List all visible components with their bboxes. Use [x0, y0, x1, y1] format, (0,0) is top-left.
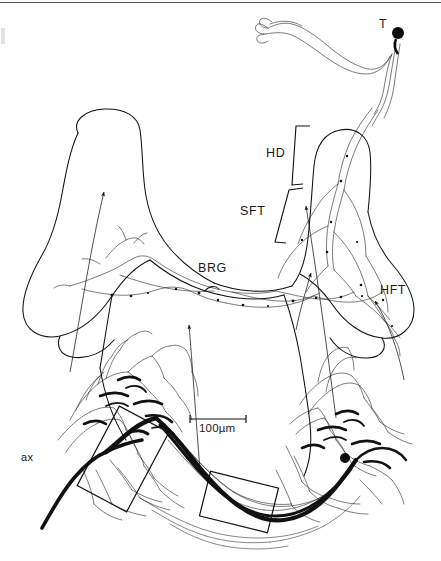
commissure-tract [156, 418, 356, 520]
left-dendritic-tuft [58, 331, 198, 520]
leader-to-mid-right [296, 273, 311, 330]
leader-to-sft [306, 206, 336, 418]
leader-to-hft [375, 301, 404, 380]
leader-arrow-group [70, 192, 404, 470]
neuron-drawing [0, 0, 441, 561]
neurite-arborization-group [54, 18, 400, 356]
bracket-sft [275, 188, 303, 243]
soma-T [392, 27, 404, 54]
label-ax: ax [21, 451, 33, 463]
label-T: T [379, 17, 387, 31]
bracket-hd [292, 126, 310, 185]
label-SFT: SFT [240, 204, 265, 218]
leader-to-brg [189, 325, 200, 470]
lower-arborization-field [42, 331, 412, 549]
scale-bar-label: 100µm [199, 422, 235, 434]
label-BRG: BRG [198, 261, 227, 275]
label-HFT: HFT [380, 283, 406, 297]
figure-root: T HD SFT BRG HFT ax 100µm [0, 0, 441, 561]
label-HD: HD [266, 146, 285, 160]
main-axon [42, 440, 142, 528]
leader-to-left-lobe [70, 192, 104, 372]
right-dendritic-tuft [276, 347, 412, 522]
soma-right [340, 453, 350, 463]
